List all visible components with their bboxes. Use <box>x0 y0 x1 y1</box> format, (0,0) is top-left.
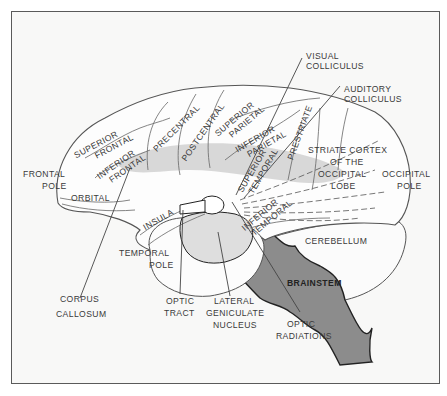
svg-text:RADIATIONS: RADIATIONS <box>276 331 332 341</box>
label-corpus-callosum: CORPUS CALLOSUM <box>56 294 106 319</box>
svg-text:TRACT: TRACT <box>164 308 195 318</box>
label-cerebellum: CEREBELLUM <box>305 236 367 246</box>
label-orbital: ORBITAL <box>71 193 110 203</box>
svg-text:GENICULATE: GENICULATE <box>206 308 264 318</box>
svg-text:COLLICULUS: COLLICULUS <box>344 94 402 104</box>
brain-diagram: VISUAL COLLICULUS AUDITORY COLLICULUS SU… <box>0 0 447 396</box>
svg-text:STRIATE CORTEX: STRIATE CORTEX <box>308 145 387 155</box>
svg-text:CORPUS: CORPUS <box>60 294 99 304</box>
svg-text:NUCLEUS: NUCLEUS <box>213 320 257 330</box>
svg-text:OCCIPITAL: OCCIPITAL <box>382 169 430 179</box>
svg-text:VISUAL: VISUAL <box>306 51 339 61</box>
svg-text:TEMPORAL: TEMPORAL <box>119 248 169 258</box>
label-brainstem: BRAINSTEM <box>287 278 342 288</box>
svg-text:OPTIC: OPTIC <box>166 296 194 306</box>
svg-text:LOBE: LOBE <box>331 181 356 191</box>
svg-text:FRONTAL: FRONTAL <box>23 169 65 179</box>
svg-text:POLE: POLE <box>397 181 422 191</box>
svg-text:CALLOSUM: CALLOSUM <box>56 309 106 319</box>
svg-text:OPTIC: OPTIC <box>287 319 315 329</box>
label-optic-tract: OPTIC TRACT <box>164 296 195 318</box>
svg-text:OCCIPITAL: OCCIPITAL <box>318 169 366 179</box>
label-visual-colliculus: VISUAL COLLICULUS <box>306 51 364 71</box>
svg-text:AUDITORY: AUDITORY <box>344 84 391 94</box>
svg-text:LATERAL: LATERAL <box>214 296 254 306</box>
label-auditory-colliculus: AUDITORY COLLICULUS <box>344 84 402 104</box>
svg-text:POLE: POLE <box>42 181 67 191</box>
svg-text:OF THE: OF THE <box>330 157 364 167</box>
label-lateral-geniculate-nucleus: LATERAL GENICULATE NUCLEUS <box>206 296 264 330</box>
svg-text:POLE: POLE <box>149 260 174 270</box>
svg-text:COLLICULUS: COLLICULUS <box>306 61 364 71</box>
